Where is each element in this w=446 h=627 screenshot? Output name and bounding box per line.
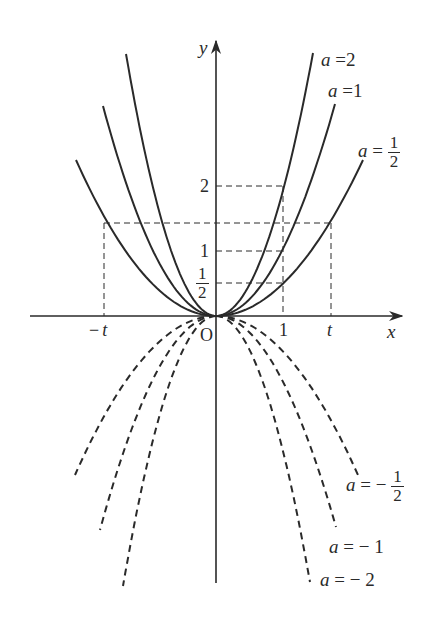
curve-label-a-half: a = 1 2 bbox=[358, 134, 400, 171]
x-tick-neg-t: −t bbox=[89, 321, 107, 339]
fraction-numerator: 1 bbox=[388, 134, 401, 153]
x-tick-1: 1 bbox=[279, 321, 288, 339]
dashed-guide-lines bbox=[104, 186, 331, 316]
fraction-half: 1 2 bbox=[196, 265, 209, 302]
parabola-curves bbox=[75, 53, 363, 586]
curve-label-a-neg-2: a = − 2 bbox=[320, 570, 375, 589]
a-value: 2 bbox=[365, 569, 375, 590]
y-tick-1: 1 bbox=[200, 242, 209, 260]
equals-minus-sign: = − bbox=[360, 474, 386, 495]
a-var: a bbox=[329, 536, 339, 557]
a-value: 2 bbox=[346, 49, 356, 70]
a-var: a bbox=[321, 49, 331, 70]
fraction-denominator: 2 bbox=[391, 487, 404, 505]
fraction-numerator: 1 bbox=[391, 468, 404, 487]
equals-minus-sign: = − bbox=[334, 569, 360, 590]
x-axis-label: x bbox=[387, 322, 395, 341]
y-axis-label: y bbox=[199, 38, 207, 57]
curve-a-0.5-left bbox=[76, 160, 216, 316]
equals-sign: = bbox=[335, 49, 346, 70]
y-tick-half: 1 2 bbox=[196, 265, 209, 302]
parabola-family-diagram bbox=[0, 0, 446, 627]
minus-sign: − bbox=[89, 320, 99, 340]
fraction-numerator: 1 bbox=[196, 265, 209, 284]
origin-label: O bbox=[200, 326, 213, 344]
curve-a-neg2-left bbox=[123, 316, 216, 586]
t-var: t bbox=[102, 320, 107, 340]
x-tick-t: t bbox=[327, 321, 332, 339]
equals-sign: = bbox=[372, 140, 383, 161]
curve-a-2-right bbox=[216, 53, 313, 316]
y-tick-2: 2 bbox=[200, 177, 209, 195]
fraction-half: 1 2 bbox=[391, 468, 404, 505]
curve-a-neg2-right bbox=[216, 316, 310, 582]
fraction-denominator: 2 bbox=[388, 153, 401, 171]
curve-a-0.5-right bbox=[216, 160, 363, 316]
fraction-half: 1 2 bbox=[388, 134, 401, 171]
fraction-denominator: 2 bbox=[196, 284, 209, 302]
a-value: 1 bbox=[353, 80, 363, 101]
a-var: a bbox=[320, 569, 330, 590]
curve-label-a-2: a =2 bbox=[321, 50, 355, 69]
curve-label-a-neg-1: a = − 1 bbox=[329, 537, 384, 556]
a-var: a bbox=[346, 474, 356, 495]
curve-label-a-1: a =1 bbox=[328, 81, 362, 100]
equals-sign: = bbox=[342, 80, 353, 101]
curve-a-1-right bbox=[216, 104, 335, 316]
a-var: a bbox=[358, 140, 368, 161]
a-value: 1 bbox=[374, 536, 384, 557]
curve-label-a-neg-half: a = − 1 2 bbox=[346, 468, 404, 505]
equals-minus-sign: = − bbox=[343, 536, 369, 557]
a-var: a bbox=[328, 80, 338, 101]
